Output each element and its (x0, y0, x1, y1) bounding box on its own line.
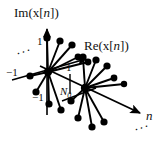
re-title-prefix: Re(x[ (84, 38, 114, 53)
period-marker-subscript: 0 (67, 91, 71, 100)
re-title-suffix: ]) (120, 38, 129, 53)
tick-re-positive-one: 1 (66, 62, 72, 73)
tick-re-negative-one: −1 (6, 67, 18, 78)
tick-im-negative-one: −1 (32, 92, 44, 103)
period-marker-label: N0 (60, 86, 71, 100)
real-axis-title: Re(x[n]) (84, 39, 129, 52)
im-title-suffix: ]) (50, 5, 59, 20)
tick-im-positive-one: 1 (37, 36, 43, 47)
complex-discrete-signal-figure: Im(x[n]) Re(x[n]) n 1 −1 1 −1 N0 ··· ··· (0, 0, 164, 145)
imaginary-axis-title: Im(x[n]) (14, 6, 59, 19)
im-title-prefix: Im(x[ (14, 5, 44, 20)
